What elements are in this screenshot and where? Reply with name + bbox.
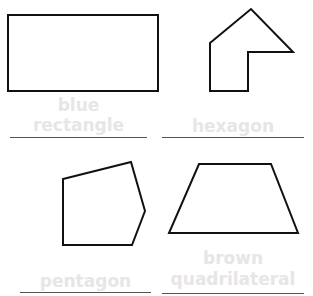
rectangle-label-color: blue — [10, 95, 147, 115]
hexagon-label: hexagon — [162, 116, 304, 136]
rectangle-label-shape: rectangle — [10, 115, 147, 135]
rectangle-shape — [8, 15, 158, 91]
quadrilateral-label-shape: quadrilateral — [162, 269, 304, 289]
answer-line-3 — [20, 292, 151, 293]
answer-line-2 — [162, 137, 304, 138]
answer-line-4 — [162, 293, 304, 294]
hexagon-shape — [210, 9, 293, 91]
quadrilateral-label-color: brown — [162, 248, 304, 268]
pentagon-shape — [63, 162, 145, 245]
quadrilateral-shape — [169, 164, 298, 233]
pentagon-label: pentagon — [20, 271, 151, 291]
answer-line-1 — [10, 137, 147, 138]
